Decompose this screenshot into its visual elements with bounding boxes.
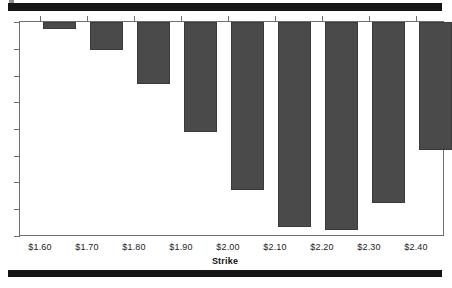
top-rule-divider <box>8 3 442 11</box>
x-axis-tick-label: $1.80 <box>107 242 161 252</box>
bar <box>90 22 123 50</box>
bar <box>43 22 76 29</box>
bottom-rule-divider <box>8 270 442 277</box>
x-axis-tick-label: $2.40 <box>389 242 443 252</box>
bar <box>325 22 358 230</box>
y-axis-tick <box>14 236 20 237</box>
bar <box>419 22 452 150</box>
x-axis-tick-label: $1.90 <box>154 242 208 252</box>
x-axis-tick-label: $2.00 <box>201 242 255 252</box>
bar-series <box>19 22 443 236</box>
bar <box>137 22 170 84</box>
x-axis-tick-label: $2.30 <box>342 242 396 252</box>
bar <box>372 22 405 203</box>
x-axis-tick-label: $1.70 <box>60 242 114 252</box>
bar <box>184 22 217 132</box>
x-axis-tick-label: $2.20 <box>295 242 349 252</box>
bar <box>278 22 311 227</box>
x-axis-title: Strike <box>0 256 450 266</box>
x-axis-tick-label: $2.10 <box>248 242 302 252</box>
bar <box>231 22 264 190</box>
x-axis-tick-label: $1.60 <box>13 242 67 252</box>
